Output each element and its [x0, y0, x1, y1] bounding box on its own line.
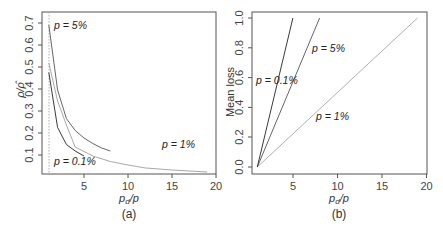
- y-tick-label: 0.6: [23, 37, 35, 52]
- y-tick-label: 0.8: [233, 40, 245, 55]
- x-tick-label: 5: [290, 180, 296, 192]
- series-line-b-p01: [257, 18, 293, 167]
- svg-text:ρ/ρ̂: ρ/ρ̂: [14, 80, 26, 99]
- annotation-b-p5: p = 5%: [311, 42, 345, 54]
- series-line-b-p5: [257, 18, 319, 167]
- x-tick-label: 5: [81, 180, 87, 192]
- x-tick-label: 15: [166, 180, 178, 192]
- y-tick-label: 0.0: [233, 159, 245, 174]
- x-tick-labels-a: 5 10 15 20: [81, 180, 222, 192]
- y-tick-label: 0.2: [233, 129, 245, 144]
- annotation-a-p01: p = 0.1%: [53, 155, 96, 167]
- panel-label-b: (b): [332, 207, 347, 221]
- annotation-a-p5: p = 5%: [53, 19, 87, 31]
- x-axis-a: [84, 174, 216, 178]
- annotation-b-p1: p = 1%: [315, 110, 349, 122]
- x-tick-label: 20: [210, 180, 222, 192]
- x-axis-b: [293, 174, 427, 178]
- y-axis-title-a: ρ/ρ̂: [14, 80, 26, 99]
- y-axis-b: [248, 18, 252, 167]
- y-tick-label: 1.0: [233, 10, 245, 25]
- y-tick-label: 0.1: [23, 147, 35, 162]
- series-line-a-p5: [49, 25, 111, 151]
- x-axis-title-b: pd/p: [328, 192, 349, 206]
- figure: 0.1 0.2 0.3 0.4 0.5 0.6 0.7 ρ/ρ̂ 5 10 15…: [0, 0, 443, 228]
- x-tick-labels-b: 5 10 15 20: [290, 180, 433, 192]
- y-axis-a: [38, 23, 42, 155]
- panel-label-a: (a): [122, 207, 137, 221]
- chart-panel-a: 0.1 0.2 0.3 0.4 0.5 0.6 0.7 ρ/ρ̂ 5 10 15…: [14, 12, 222, 221]
- y-tick-label: 0.5: [23, 59, 35, 74]
- y-tick-label: 0.7: [23, 15, 35, 30]
- chart-panel-b: 0.0 0.2 0.4 0.6 0.8 1.0 Mean loss 5 10 1…: [224, 10, 433, 221]
- y-tick-label: 0.3: [23, 103, 35, 118]
- y-tick-label: 0.2: [23, 125, 35, 140]
- plot-frame-b: [252, 12, 427, 174]
- x-tick-label: 15: [376, 180, 388, 192]
- x-tick-label: 20: [420, 180, 432, 192]
- series-line-b-p1: [257, 18, 417, 167]
- annotation-b-p01: p = 0.1%: [255, 74, 298, 86]
- x-tick-label: 10: [122, 180, 134, 192]
- y-axis-title-b: Mean loss: [224, 66, 236, 117]
- annotation-a-p1: p = 1%: [161, 138, 195, 150]
- x-axis-title-a: pd/p: [118, 192, 139, 206]
- x-tick-label: 10: [331, 180, 343, 192]
